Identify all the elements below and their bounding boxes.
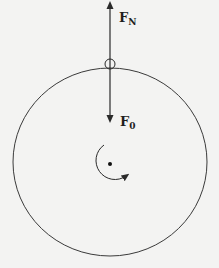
applied-force-subscript: 0 [129, 121, 135, 131]
normal-force-subscript: N [128, 17, 136, 27]
free-body-diagram: FN F0 [0, 0, 219, 268]
rotation-arrow-icon [96, 145, 126, 180]
applied-force-symbol: F [120, 114, 129, 129]
normal-force-label: FN [119, 11, 136, 27]
normal-force-symbol: F [119, 10, 128, 25]
center-point-dot [108, 162, 112, 166]
diagram-canvas [0, 0, 219, 268]
applied-force-label: F0 [120, 115, 136, 131]
